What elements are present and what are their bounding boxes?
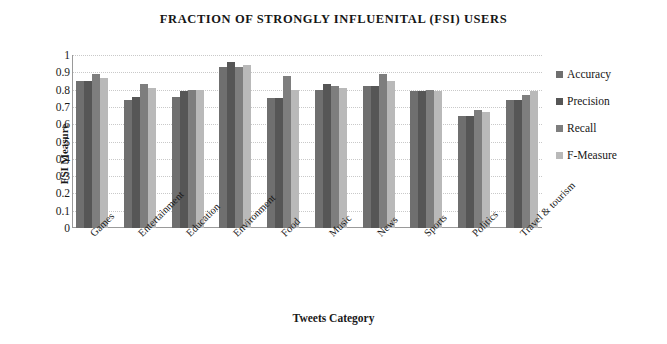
bar-precision[interactable] bbox=[371, 86, 379, 228]
legend-swatch-icon bbox=[556, 71, 563, 78]
legend: AccuracyPrecisionRecallF-Measure bbox=[556, 68, 664, 176]
bar-precision[interactable] bbox=[180, 91, 188, 228]
bar-accuracy[interactable] bbox=[410, 91, 418, 228]
bar-precision[interactable] bbox=[323, 84, 331, 228]
bar-group bbox=[219, 55, 251, 228]
bar-f-measure[interactable] bbox=[243, 65, 251, 228]
bar-recall[interactable] bbox=[235, 67, 243, 228]
bar-f-measure[interactable] bbox=[148, 88, 156, 228]
x-axis-title: Tweets Category bbox=[0, 312, 667, 324]
bar-recall[interactable] bbox=[474, 110, 482, 228]
y-tick-label: 1 bbox=[64, 49, 70, 61]
bar-accuracy[interactable] bbox=[458, 116, 466, 228]
bar-precision[interactable] bbox=[132, 97, 140, 228]
bar-precision[interactable] bbox=[227, 62, 235, 228]
bar-f-measure[interactable] bbox=[291, 90, 299, 228]
legend-swatch-icon bbox=[556, 152, 563, 159]
legend-label: F-Measure bbox=[567, 149, 617, 161]
bar-f-measure[interactable] bbox=[339, 88, 347, 228]
bar-accuracy[interactable] bbox=[76, 81, 84, 228]
y-tick-label: 0.2 bbox=[56, 187, 70, 199]
bar-recall[interactable] bbox=[426, 90, 434, 228]
bar-f-measure[interactable] bbox=[387, 81, 395, 228]
bar-precision[interactable] bbox=[514, 100, 522, 228]
chart-title: FRACTION OF STRONGLY INFLUENITAL (FSI) U… bbox=[0, 12, 667, 27]
bar-recall[interactable] bbox=[379, 74, 387, 228]
legend-swatch-icon bbox=[556, 98, 563, 105]
bar-recall[interactable] bbox=[188, 90, 196, 228]
bar-groups bbox=[72, 55, 542, 228]
y-axis: FSI Measure 10.90.80.70.60.50.40.30.20.1… bbox=[34, 48, 70, 238]
bar-recall[interactable] bbox=[283, 76, 291, 228]
legend-item-f-measure[interactable]: F-Measure bbox=[556, 149, 664, 161]
chart-container: FRACTION OF STRONGLY INFLUENITAL (FSI) U… bbox=[0, 0, 667, 344]
bar-accuracy[interactable] bbox=[219, 67, 227, 228]
bar-accuracy[interactable] bbox=[315, 90, 323, 228]
bar-group bbox=[124, 55, 156, 228]
bar-group bbox=[363, 55, 395, 228]
bar-accuracy[interactable] bbox=[506, 100, 514, 228]
legend-swatch-icon bbox=[556, 125, 563, 132]
bar-accuracy[interactable] bbox=[124, 100, 132, 228]
y-tick-label: 0.8 bbox=[56, 84, 70, 96]
legend-item-precision[interactable]: Precision bbox=[556, 95, 664, 107]
y-tick-label: 0.7 bbox=[56, 101, 70, 113]
bar-group bbox=[315, 55, 347, 228]
y-tick-label: 0.9 bbox=[56, 66, 70, 78]
legend-label: Accuracy bbox=[567, 68, 611, 80]
bar-f-measure[interactable] bbox=[530, 91, 538, 228]
bar-accuracy[interactable] bbox=[363, 86, 371, 228]
bar-recall[interactable] bbox=[522, 95, 530, 228]
bar-precision[interactable] bbox=[275, 98, 283, 228]
bar-f-measure[interactable] bbox=[196, 90, 204, 228]
bar-group bbox=[76, 55, 108, 228]
y-tick-label: 0.1 bbox=[56, 205, 70, 217]
bar-recall[interactable] bbox=[92, 74, 100, 228]
bar-group bbox=[458, 55, 490, 228]
legend-item-recall[interactable]: Recall bbox=[556, 122, 664, 134]
bar-recall[interactable] bbox=[140, 84, 148, 228]
legend-label: Recall bbox=[567, 122, 596, 134]
y-tick-label: 0.3 bbox=[56, 170, 70, 182]
bar-precision[interactable] bbox=[84, 81, 92, 228]
legend-label: Precision bbox=[567, 95, 610, 107]
bar-precision[interactable] bbox=[466, 116, 474, 228]
y-tick-label: 0.5 bbox=[56, 136, 70, 148]
legend-item-accuracy[interactable]: Accuracy bbox=[556, 68, 664, 80]
bar-f-measure[interactable] bbox=[434, 91, 442, 228]
bar-group bbox=[410, 55, 442, 228]
bar-precision[interactable] bbox=[418, 91, 426, 228]
y-tick-label: 0 bbox=[64, 222, 70, 234]
bar-group bbox=[506, 55, 538, 228]
bar-recall[interactable] bbox=[331, 86, 339, 228]
bar-f-measure[interactable] bbox=[100, 78, 108, 229]
y-tick-label: 0.6 bbox=[56, 118, 70, 130]
y-tick-label: 0.4 bbox=[56, 153, 70, 165]
